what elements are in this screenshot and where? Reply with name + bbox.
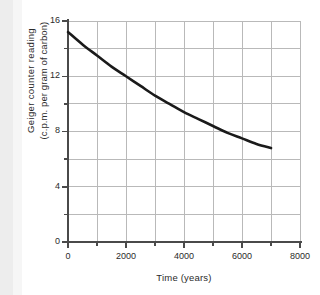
x-tick-label-6000: 6000 (222, 251, 262, 261)
chart-page: 16 12 8 4 0 0 2000 4000 6000 8000 Geiger… (0, 0, 320, 295)
x-tick-label-0: 0 (48, 251, 88, 261)
y-tick-label-4: 4 (34, 181, 60, 191)
x-axis-title: Time (years) (68, 272, 300, 283)
y-tick-label-0: 0 (34, 236, 60, 246)
y-axis-title: Geiger counter reading (c.p.m. per gram … (25, 0, 50, 181)
chart-figure: 16 12 8 4 0 0 2000 4000 6000 8000 Geiger… (0, 0, 320, 295)
y-axis-title-line2: (c.p.m. per gram of carbon) (37, 0, 50, 181)
x-tick-label-2000: 2000 (106, 251, 146, 261)
x-tick-label-4000: 4000 (164, 251, 204, 261)
x-tick-label-8000: 8000 (280, 251, 320, 261)
y-axis-title-line1: Geiger counter reading (25, 0, 38, 181)
